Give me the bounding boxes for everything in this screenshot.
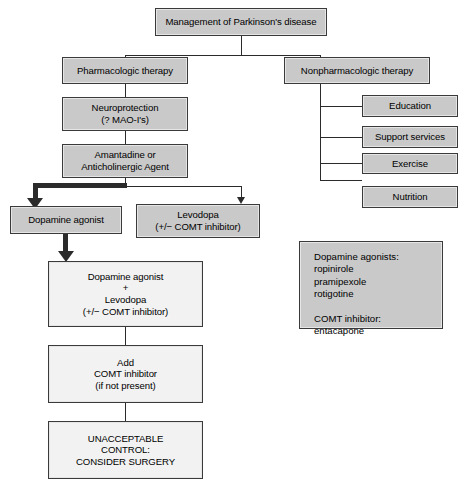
node-dopamine-agonist-label: Dopamine agonist — [25, 214, 107, 226]
node-levodopa-label: Levodopa (+/− COMT inhibitor) — [152, 209, 243, 232]
node-consider-surgery[interactable]: UNACCEPTABLE CONTROL: CONSIDER SURGERY — [48, 421, 203, 479]
node-nutrition-label: Nutrition — [390, 191, 431, 203]
node-consider-surgery-label: UNACCEPTABLE CONTROL: CONSIDER SURGERY — [73, 433, 178, 468]
node-root[interactable]: Management of Parkinson's disease — [155, 8, 327, 36]
node-levodopa[interactable]: Levodopa (+/− COMT inhibitor) — [136, 204, 260, 238]
node-root-label: Management of Parkinson's disease — [162, 16, 319, 28]
node-exercise-label: Exercise — [389, 158, 431, 170]
connector-root-horizontal — [125, 55, 321, 56]
connector-branch-support-services — [320, 137, 362, 138]
node-education[interactable]: Education — [362, 95, 458, 117]
connector-branch-nutrition — [320, 180, 362, 181]
connector-split-right — [125, 186, 241, 187]
node-combination-therapy-label: Dopamine agonist + Levodopa (+/− COMT in… — [80, 271, 171, 317]
node-nutrition[interactable]: Nutrition — [362, 186, 458, 208]
node-amantadine-label: Amantadine or Anticholinergic Agent — [78, 149, 172, 172]
node-pharmacologic-therapy[interactable]: Pharmacologic therapy — [62, 57, 188, 84]
connector-nonpharm-trunk — [320, 84, 321, 180]
thick-connector-to-combination — [63, 233, 68, 253]
node-add-comt-inhibitor[interactable]: Add COMT inhibitor (if not present) — [48, 345, 203, 403]
drug-legend-box: Dopamine agonists: ropinirole pramipexol… — [299, 241, 443, 329]
connector-branch-education — [320, 106, 362, 107]
node-nonpharmacologic-therapy[interactable]: Nonpharmacologic therapy — [284, 57, 430, 84]
node-neuroprotection-label: Neuroprotection (? MAO-I's) — [89, 102, 162, 125]
connector-combination-to-addcomt — [125, 327, 126, 345]
node-amantadine[interactable]: Amantadine or Anticholinergic Agent — [62, 144, 188, 178]
connector-neuroprotection-to-amantadine — [125, 131, 126, 145]
node-pharmacologic-therapy-label: Pharmacologic therapy — [74, 65, 176, 77]
connector-root-down — [241, 36, 242, 55]
node-education-label: Education — [386, 100, 434, 112]
arrowhead-levodopa — [237, 197, 245, 204]
node-dopamine-agonist[interactable]: Dopamine agonist — [10, 206, 122, 234]
node-neuroprotection[interactable]: Neuroprotection (? MAO-I's) — [62, 97, 188, 131]
node-nonpharmacologic-therapy-label: Nonpharmacologic therapy — [298, 65, 416, 77]
node-combination-therapy[interactable]: Dopamine agonist + Levodopa (+/− COMT in… — [48, 261, 203, 327]
node-support-services[interactable]: Support services — [362, 126, 458, 148]
connector-pharm-to-neuroprotection — [125, 84, 126, 98]
connector-branch-exercise — [320, 163, 362, 164]
node-add-comt-inhibitor-label: Add COMT inhibitor (if not present) — [91, 357, 160, 392]
connector-addcomt-to-surgery — [125, 403, 126, 421]
node-support-services-label: Support services — [372, 131, 448, 143]
parkinsons-management-flowchart: Management of Parkinson's disease Pharma… — [0, 0, 467, 492]
node-exercise[interactable]: Exercise — [362, 153, 458, 174]
thick-connector-horizontal — [33, 183, 127, 188]
drug-legend-text: Dopamine agonists: ropinirole pramipexol… — [314, 251, 442, 338]
